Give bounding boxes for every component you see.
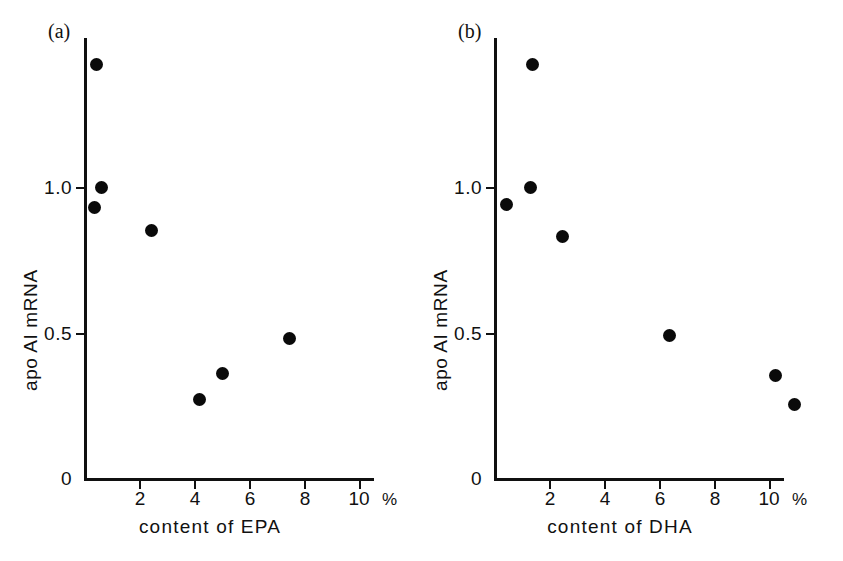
y-axis-title-b: apo AI mRNA	[430, 271, 452, 391]
x-axis-title-a: content of EPA	[110, 516, 310, 538]
x-tick-label-2-a: 2	[120, 488, 160, 510]
x-axis-unit-a: %	[382, 490, 397, 510]
y-tick-label-1.0-a: 1.0	[6, 177, 72, 199]
x-axis-line-b	[494, 478, 784, 481]
y-tick-label-1.0-b: 1.0	[416, 177, 482, 199]
data-point	[95, 181, 108, 194]
y-axis-title-a: apo AI mRNA	[20, 271, 42, 391]
x-tick-label-4-b: 4	[585, 488, 625, 510]
panel-a: (a) 1.0 0.5 0 2 4 6 8 10 %	[0, 0, 421, 561]
panel-label-a: (a)	[48, 20, 70, 43]
data-point	[216, 367, 229, 380]
data-point	[500, 198, 513, 211]
data-point	[193, 393, 206, 406]
panel-label-b: (b)	[458, 20, 481, 43]
data-point	[88, 201, 101, 214]
x-tick-label-6-b: 6	[640, 488, 680, 510]
data-point	[145, 224, 158, 237]
x-tick-label-8-b: 8	[695, 488, 735, 510]
data-point	[663, 329, 676, 342]
data-point	[788, 398, 801, 411]
y-tick-mark-0.5-a	[76, 333, 85, 335]
data-point	[769, 369, 782, 382]
scatter-plot-figure: (a) 1.0 0.5 0 2 4 6 8 10 %	[0, 0, 843, 561]
y-axis-line-a	[84, 38, 87, 480]
data-point	[524, 181, 537, 194]
x-axis-line-a	[84, 478, 374, 481]
data-point	[556, 230, 569, 243]
panel-b: (b) 1.0 0.5 0 2 4 6 8 10 %	[410, 0, 831, 561]
x-tick-label-10-a: 10	[339, 488, 379, 510]
x-axis-title-b: content of DHA	[520, 516, 720, 538]
x-tick-label-8-a: 8	[285, 488, 325, 510]
x-tick-label-10-b: 10	[749, 488, 789, 510]
x-axis-unit-b: %	[792, 490, 807, 510]
data-point	[526, 58, 539, 71]
x-tick-label-2-b: 2	[530, 488, 570, 510]
y-tick-label-0-b: 0	[416, 468, 482, 490]
y-tick-mark-1.0-b	[486, 187, 495, 189]
y-tick-mark-0.5-b	[486, 333, 495, 335]
x-tick-label-4-a: 4	[175, 488, 215, 510]
y-axis-line-b	[494, 38, 497, 480]
data-point	[283, 332, 296, 345]
y-tick-mark-1.0-a	[76, 187, 85, 189]
data-point	[90, 58, 103, 71]
y-tick-label-0-a: 0	[6, 468, 72, 490]
x-tick-label-6-a: 6	[230, 488, 270, 510]
